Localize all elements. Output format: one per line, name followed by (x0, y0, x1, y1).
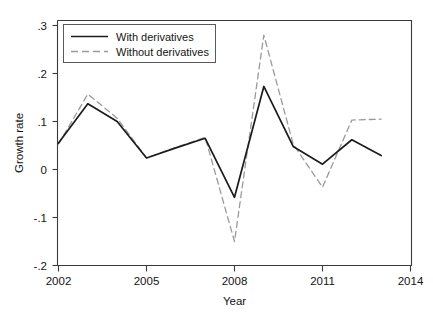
data-series-group (59, 35, 382, 241)
x-tick-label-3: 2011 (310, 275, 335, 287)
x-tick-label-4: 2014 (398, 275, 424, 287)
x-tick-label-0: 2002 (46, 275, 72, 287)
y-axis-title: Growth rate (13, 113, 25, 173)
series-line-without-derivatives (59, 35, 382, 241)
x-tick-label-1: 2005 (134, 275, 160, 287)
legend-label-without-derivatives: Without derivatives (116, 46, 209, 58)
x-axis-tick-labels: 2002 2005 2008 2011 2014 (46, 275, 424, 287)
x-tick-label-2: 2008 (222, 275, 248, 287)
y-tick-label-1: .2 (37, 68, 47, 80)
x-axis-title: Year (223, 295, 246, 307)
series-line-with-derivatives (59, 86, 382, 197)
y-axis-ticks (53, 26, 58, 266)
legend-label-with-derivatives: With derivatives (116, 31, 194, 43)
y-tick-label-4: -.1 (34, 212, 47, 224)
growth-rate-line-chart: .3 .2 .1 0 -.1 -.2 2002 2005 2008 2011 2… (0, 0, 433, 316)
y-tick-label-5: -.2 (34, 260, 47, 272)
y-tick-label-0: .3 (37, 20, 47, 32)
chart-figure: .3 .2 .1 0 -.1 -.2 2002 2005 2008 2011 2… (0, 0, 433, 316)
chart-legend: With derivatives Without derivatives (64, 25, 216, 63)
y-tick-label-3: 0 (41, 164, 47, 176)
x-axis-ticks (59, 266, 411, 272)
y-tick-label-2: .1 (37, 116, 47, 128)
y-axis-tick-labels: .3 .2 .1 0 -.1 -.2 (34, 20, 47, 272)
